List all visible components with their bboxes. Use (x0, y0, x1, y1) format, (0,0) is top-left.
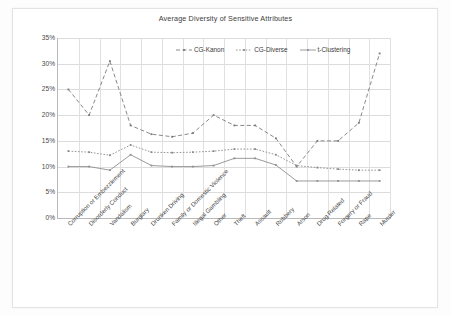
data-point-marker (213, 150, 215, 152)
y-axis-tick-label: 30% (15, 60, 55, 67)
data-point-marker (171, 136, 173, 138)
data-point-marker (254, 125, 256, 127)
data-point-marker (233, 157, 235, 159)
legend-label: t-Clustering (318, 46, 351, 53)
data-point-marker (275, 154, 277, 156)
chart-title: Average Diversity of Sensitive Attribute… (0, 14, 451, 23)
data-point-marker (213, 114, 215, 116)
data-point-marker (130, 144, 132, 146)
legend-swatch-icon (236, 47, 252, 53)
chart-legend: CG-KanonCG-Diverset-Clustering (176, 46, 350, 53)
series-lines (58, 38, 390, 218)
data-point-marker (275, 137, 277, 139)
data-point-marker (171, 152, 173, 154)
legend-label: CG-Diverse (254, 46, 287, 53)
data-point-marker (67, 150, 69, 152)
data-point-marker (275, 164, 277, 166)
data-point-marker (337, 140, 339, 142)
data-point-marker (337, 168, 339, 170)
data-point-marker (192, 151, 194, 153)
data-point-marker (316, 180, 318, 182)
data-point-marker (316, 167, 318, 169)
data-point-marker (109, 154, 111, 156)
data-point-marker (254, 148, 256, 150)
data-point-marker (150, 133, 152, 135)
data-point-marker (171, 166, 173, 168)
data-point-marker (337, 180, 339, 182)
data-point-marker (358, 122, 360, 124)
data-point-marker (130, 154, 132, 156)
y-axis-tick-label: 15% (15, 137, 55, 144)
y-axis-tick-label: 35% (15, 34, 55, 41)
legend-entry-t-clustering: t-Clustering (300, 46, 351, 53)
data-point-marker (233, 125, 235, 127)
legend-swatch-icon (300, 47, 316, 53)
screenshot-page: Average Diversity of Sensitive Attribute… (0, 0, 451, 316)
data-point-marker (88, 166, 90, 168)
data-point-marker (379, 53, 381, 55)
data-point-marker (213, 165, 215, 167)
data-point-marker (109, 169, 111, 171)
plot-area (58, 38, 390, 218)
data-point-marker (233, 148, 235, 150)
data-point-marker (316, 140, 318, 142)
data-point-marker (379, 169, 381, 171)
legend-entry-cg-kanon: CG-Kanon (176, 46, 224, 53)
y-axis-tick-label: 5% (15, 188, 55, 195)
data-point-marker (358, 180, 360, 182)
y-axis-tick-label: 0% (15, 214, 55, 221)
data-point-marker (67, 89, 69, 91)
data-point-marker (296, 180, 298, 182)
y-axis-tick-label: 10% (15, 163, 55, 170)
data-point-marker (130, 125, 132, 127)
legend-entry-cg-diverse: CG-Diverse (236, 46, 287, 53)
y-axis-tick-label: 25% (15, 85, 55, 92)
y-axis-tick-label: 20% (15, 111, 55, 118)
series-line-cg-kanon (68, 53, 379, 166)
data-point-marker (254, 157, 256, 159)
data-point-marker (150, 151, 152, 153)
data-point-marker (358, 169, 360, 171)
data-point-marker (192, 166, 194, 168)
legend-label: CG-Kanon (194, 46, 224, 53)
data-point-marker (88, 114, 90, 116)
data-point-marker (150, 165, 152, 167)
legend-swatch-icon (176, 47, 192, 53)
data-point-marker (88, 151, 90, 153)
data-point-marker (109, 60, 111, 62)
data-point-marker (379, 180, 381, 182)
gridline-vertical (390, 38, 391, 218)
data-point-marker (192, 132, 194, 134)
data-point-marker (67, 166, 69, 168)
data-point-marker (296, 165, 298, 167)
